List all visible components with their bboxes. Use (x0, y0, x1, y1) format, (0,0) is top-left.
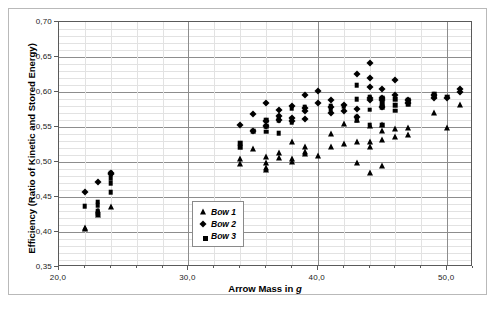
data-point-bow-1 (457, 101, 463, 107)
data-point-bow-1 (444, 124, 450, 130)
y-tick-major (54, 161, 58, 162)
gridline-horizontal-minor (59, 239, 471, 240)
x-tick-minor (136, 266, 137, 268)
x-tick-label: 30,0 (179, 273, 195, 282)
data-point-bow-1 (289, 156, 295, 162)
data-point-bow-3 (109, 171, 114, 176)
data-point-bow-3 (290, 106, 295, 111)
data-point-bow-2 (262, 122, 269, 129)
data-point-bow-3 (380, 105, 385, 110)
data-point-bow-3 (393, 103, 398, 108)
data-point-bow-1 (263, 154, 269, 160)
gridline-vertical-minor (292, 22, 293, 265)
x-tick-label: 40,0 (309, 273, 325, 282)
gridline-horizontal-minor (59, 85, 471, 86)
gridline-horizontal-major (59, 162, 471, 163)
data-point-bow-3 (393, 97, 398, 102)
gridline-horizontal-minor (59, 134, 471, 135)
data-point-bow-1 (276, 154, 282, 160)
data-point-bow-2 (456, 86, 463, 93)
x-tick-minor (369, 266, 370, 268)
data-point-bow-2 (314, 99, 321, 106)
legend-item-bow-3[interactable]: Bow 3 (198, 230, 236, 242)
data-point-bow-2 (392, 76, 399, 83)
data-point-bow-2 (314, 88, 321, 95)
data-point-bow-2 (301, 107, 308, 114)
y-tick-major (54, 196, 58, 197)
data-point-bow-3 (432, 95, 437, 100)
data-point-bow-3 (328, 104, 333, 109)
data-point-bow-2 (379, 97, 386, 104)
data-point-bow-3 (406, 102, 411, 107)
data-point-bow-2 (366, 83, 373, 90)
data-point-bow-3 (393, 109, 398, 114)
data-point-bow-3 (83, 204, 88, 209)
x-tick-minor (162, 266, 163, 268)
data-point-bow-1 (289, 139, 295, 145)
triangle-glyph (200, 209, 206, 215)
data-point-bow-3 (354, 114, 359, 119)
data-point-bow-1 (431, 110, 437, 116)
x-tick-minor (291, 266, 292, 268)
data-point-bow-2 (249, 127, 256, 134)
gridline-horizontal-minor (59, 43, 471, 44)
legend-item-bow-1[interactable]: Bow 1 (198, 206, 236, 218)
gridline-horizontal-minor (59, 148, 471, 149)
gridline-horizontal-major (59, 57, 471, 58)
gridline-horizontal-minor (59, 50, 471, 51)
data-point-bow-3 (264, 130, 269, 135)
data-point-bow-3 (238, 145, 243, 150)
data-point-bow-3 (96, 211, 101, 216)
legend-label: Bow 1 (211, 207, 236, 217)
gridline-horizontal-major (59, 127, 471, 128)
data-point-bow-2 (379, 86, 386, 93)
data-point-bow-1 (379, 136, 385, 142)
gridline-vertical-minor (111, 22, 112, 265)
data-point-bow-3 (290, 116, 295, 121)
gridline-vertical-minor (266, 22, 267, 265)
gridline-vertical-minor (163, 22, 164, 265)
data-point-bow-1 (354, 139, 360, 145)
data-point-bow-2 (275, 112, 282, 119)
data-point-bow-2 (288, 117, 295, 124)
data-point-bow-2 (366, 94, 373, 101)
data-point-bow-1 (354, 117, 360, 123)
diamond-glyph (199, 220, 206, 227)
gridline-horizontal-minor (59, 225, 471, 226)
data-point-bow-1 (341, 120, 347, 126)
y-tick-major (54, 56, 58, 57)
gridline-horizontal-minor (59, 176, 471, 177)
gridline-horizontal-minor (59, 204, 471, 205)
data-point-bow-1 (302, 143, 308, 149)
data-point-bow-3 (277, 131, 282, 136)
data-point-bow-2 (301, 91, 308, 98)
data-point-bow-2 (456, 88, 463, 95)
gridline-horizontal-minor (59, 113, 471, 114)
data-point-bow-1 (95, 208, 101, 214)
x-tick-major (317, 266, 318, 270)
x-tick-minor (420, 266, 421, 268)
y-tick-major (54, 91, 58, 92)
data-point-bow-2 (94, 179, 101, 186)
legend-item-bow-2[interactable]: Bow 2 (198, 218, 236, 230)
data-point-bow-1 (237, 156, 243, 162)
data-point-bow-2 (275, 116, 282, 123)
gridline-vertical-minor (344, 22, 345, 265)
data-point-bow-2 (236, 121, 243, 128)
data-point-bow-2 (405, 97, 412, 104)
gridline-horizontal-minor (59, 246, 471, 247)
y-tick-major (54, 126, 58, 127)
data-point-bow-3 (96, 209, 101, 214)
data-point-bow-1 (328, 143, 334, 149)
data-point-bow-1 (263, 164, 269, 170)
data-point-bow-1 (302, 150, 308, 156)
data-point-bow-3 (328, 107, 333, 112)
data-point-bow-3 (380, 123, 385, 128)
data-point-bow-3 (96, 200, 101, 205)
data-point-bow-3 (380, 101, 385, 106)
data-point-bow-1 (341, 140, 347, 146)
gridline-horizontal-minor (59, 211, 471, 212)
data-point-bow-1 (392, 133, 398, 139)
data-point-bow-2 (275, 107, 282, 114)
data-point-bow-2 (340, 107, 347, 114)
